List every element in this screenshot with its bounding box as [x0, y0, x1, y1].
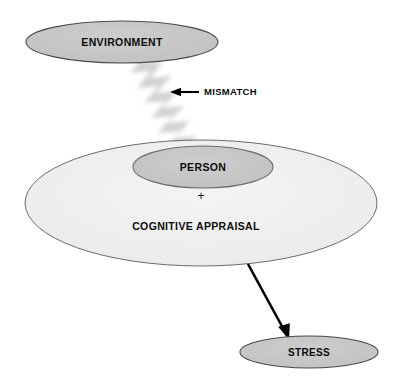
stress-label: STRESS [288, 347, 330, 358]
diagram-canvas: ENVIRONMENT COGNITIVE APPRAISAL PERSON +… [0, 0, 399, 387]
person-label: PERSON [180, 161, 226, 173]
node-stress[interactable]: STRESS [240, 336, 378, 368]
mismatch-connector: MISMATCH [170, 86, 257, 97]
mismatch-label: MISMATCH [204, 86, 257, 97]
stress-connector [248, 264, 290, 340]
cognitive-appraisal-label: COGNITIVE APPRAISAL [132, 220, 260, 232]
mismatch-lightning-bolt-icon [130, 62, 197, 148]
node-person[interactable]: PERSON [133, 146, 273, 188]
stress-arrow-shaft [248, 264, 284, 330]
node-environment[interactable]: ENVIRONMENT [26, 21, 218, 63]
stress-model-diagram: ENVIRONMENT COGNITIVE APPRAISAL PERSON +… [0, 0, 399, 387]
environment-label: ENVIRONMENT [81, 36, 163, 48]
plus-operator: + [197, 189, 204, 203]
